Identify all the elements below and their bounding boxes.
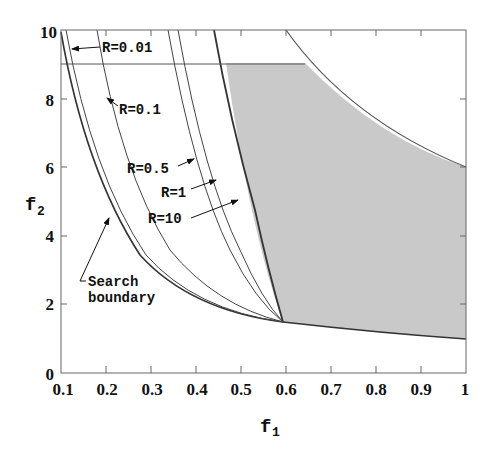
label-boundary: boundary bbox=[88, 290, 156, 306]
x-tick-labels: 0.1 0.2 0.3 0.4 0.5 0.6 0.7 0.8 0.9 1 bbox=[52, 380, 469, 399]
label-r-10: R=10 bbox=[148, 211, 182, 227]
svg-text:10: 10 bbox=[40, 23, 57, 42]
arrow-r-0-5 bbox=[178, 159, 194, 166]
label-r-1: R=1 bbox=[161, 185, 186, 201]
svg-text:6: 6 bbox=[46, 159, 55, 178]
svg-text:1: 1 bbox=[461, 380, 470, 399]
svg-text:0.8: 0.8 bbox=[365, 380, 386, 399]
svg-text:0: 0 bbox=[46, 365, 55, 384]
svg-text:0.5: 0.5 bbox=[230, 380, 251, 399]
svg-text:0.1: 0.1 bbox=[52, 380, 73, 399]
svg-text:2: 2 bbox=[46, 295, 55, 314]
svg-text:0.7: 0.7 bbox=[320, 380, 342, 399]
svg-text:8: 8 bbox=[46, 91, 55, 110]
svg-text:0.9: 0.9 bbox=[410, 380, 431, 399]
chart: 0.1 0.2 0.3 0.4 0.5 0.6 0.7 0.8 0.9 1 0 … bbox=[0, 0, 488, 454]
arrow-r-0-01 bbox=[72, 47, 100, 49]
label-r-0-01: R=0.01 bbox=[102, 40, 152, 56]
label-r-0-5: R=0.5 bbox=[127, 161, 169, 177]
svg-text:0.6: 0.6 bbox=[275, 380, 296, 399]
feasible-region bbox=[226, 63, 466, 339]
arrow-search-boundary bbox=[80, 218, 109, 281]
label-r-0-1: R=0.1 bbox=[119, 102, 161, 118]
y-axis-subscript: 2 bbox=[37, 204, 45, 219]
svg-text:4: 4 bbox=[46, 227, 55, 246]
x-axis-subscript: 1 bbox=[272, 425, 280, 440]
svg-text:0.4: 0.4 bbox=[186, 380, 208, 399]
svg-text:0.2: 0.2 bbox=[96, 380, 117, 399]
label-search: Search bbox=[88, 274, 138, 290]
svg-text:0.3: 0.3 bbox=[141, 380, 162, 399]
y-axis-label: f bbox=[25, 194, 36, 216]
x-axis-label: f bbox=[260, 416, 271, 438]
